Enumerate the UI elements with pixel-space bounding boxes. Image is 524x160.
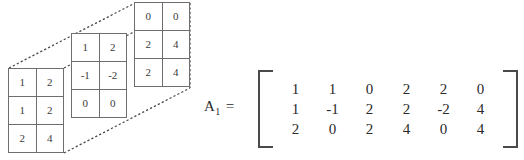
front-slice-cell: 2 bbox=[9, 125, 37, 153]
matrix-cell: 1 bbox=[277, 99, 314, 119]
middle-slice-cell: 1 bbox=[72, 34, 100, 62]
matrix-cell: 0 bbox=[314, 119, 351, 139]
matrix-cell: 2 bbox=[425, 79, 462, 99]
matrix-equation: A1= 1 1 0 2 2 0 1 -1 2 2 -2 4 2 0 2 4 bbox=[196, 0, 524, 160]
matrix-cell: 2 bbox=[388, 99, 425, 119]
front-slice-cell: 2 bbox=[37, 97, 65, 125]
matrix-cell: 2 bbox=[277, 119, 314, 139]
matrix-grid: 1 1 0 2 2 0 1 -1 2 2 -2 4 2 0 2 4 0 4 bbox=[273, 70, 503, 148]
back-slice-cell: 2 bbox=[135, 31, 163, 59]
back-slice-cell: 0 bbox=[163, 3, 191, 31]
tensor-unfolding-figure: 0 0 2 4 2 4 1 2 -1 -2 0 0 1 2 1 2 2 4 A bbox=[0, 0, 524, 160]
matrix-cell: 4 bbox=[462, 119, 499, 139]
matrix-label-base: A bbox=[204, 98, 215, 114]
matrix-cell: 2 bbox=[351, 119, 388, 139]
back-slice-cell: 2 bbox=[135, 59, 163, 87]
matrix-cell: 2 bbox=[388, 79, 425, 99]
back-slice-cell: 4 bbox=[163, 59, 191, 87]
front-slice-cell: 4 bbox=[37, 125, 65, 153]
middle-slice-cell: -2 bbox=[100, 62, 128, 90]
back-slice: 0 0 2 4 2 4 bbox=[134, 2, 190, 87]
matrix-cell: 4 bbox=[388, 119, 425, 139]
matrix-cell: 0 bbox=[425, 119, 462, 139]
back-slice-cell: 0 bbox=[135, 3, 163, 31]
left-bracket bbox=[258, 70, 273, 148]
middle-slice-cell: 0 bbox=[72, 90, 100, 118]
right-bracket bbox=[503, 70, 518, 148]
front-slice-cell: 1 bbox=[9, 97, 37, 125]
front-slice-cell: 1 bbox=[9, 69, 37, 97]
matrix-label-subscript: 1 bbox=[215, 106, 221, 117]
matrix-cell: 0 bbox=[351, 79, 388, 99]
matrix-cell: 0 bbox=[462, 79, 499, 99]
front-slice-cell: 2 bbox=[37, 69, 65, 97]
matrix-cell: 1 bbox=[277, 79, 314, 99]
matrix-cell: -2 bbox=[425, 99, 462, 119]
middle-slice-cell: 0 bbox=[100, 90, 128, 118]
middle-slice-cell: -1 bbox=[72, 62, 100, 90]
matrix-cell: -1 bbox=[314, 99, 351, 119]
matrix-bracketed: 1 1 0 2 2 0 1 -1 2 2 -2 4 2 0 2 4 0 4 bbox=[258, 70, 518, 148]
middle-slice: 1 2 -1 -2 0 0 bbox=[71, 33, 127, 118]
tensor-diagram: 0 0 2 4 2 4 1 2 -1 -2 0 0 1 2 1 2 2 4 bbox=[0, 0, 210, 160]
matrix-cell: 1 bbox=[314, 79, 351, 99]
matrix-label: A1= bbox=[204, 98, 235, 117]
matrix-cell: 4 bbox=[462, 99, 499, 119]
front-slice: 1 2 1 2 2 4 bbox=[8, 68, 64, 153]
matrix-cell: 2 bbox=[351, 99, 388, 119]
middle-slice-cell: 2 bbox=[100, 34, 128, 62]
equals-sign: = bbox=[226, 98, 235, 114]
back-slice-cell: 4 bbox=[163, 31, 191, 59]
